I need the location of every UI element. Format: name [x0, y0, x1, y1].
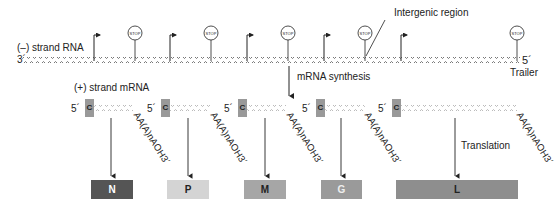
- trailer-label: Trailer: [510, 67, 538, 78]
- minus-strand-label: (–) strand RNA: [17, 42, 84, 53]
- svg-text:STOP: STOP: [360, 31, 371, 36]
- svg-text:STOP: STOP: [283, 31, 294, 36]
- five-prime-label: 5´: [71, 103, 80, 114]
- svg-text:STOP: STOP: [206, 31, 217, 36]
- protein-n: N: [91, 180, 133, 199]
- five-prime-label: 5´: [378, 103, 387, 114]
- five-prime-label: 5´: [147, 103, 156, 114]
- mrna-synthesis-label: mRNA synthesis: [297, 71, 370, 82]
- five-prime-label: 5´: [224, 103, 233, 114]
- protein-m: M: [244, 180, 286, 199]
- cap-box: C: [161, 99, 170, 117]
- cap-box: C: [316, 99, 325, 117]
- five-prime-label: 5´: [522, 54, 532, 66]
- svg-text:STOP: STOP: [130, 31, 141, 36]
- protein-l: L: [396, 180, 518, 199]
- three-prime-label: 3´: [17, 54, 26, 65]
- plus-strand-label: (+) strand mRNA: [74, 82, 149, 93]
- protein-g: G: [321, 180, 362, 199]
- intergenic-region-label: Intergenic region: [394, 7, 469, 18]
- cap-box: C: [85, 99, 94, 117]
- svg-text:STOP: STOP: [512, 31, 523, 36]
- cap-box: C: [392, 99, 401, 117]
- minus-strand-rna: [22, 57, 520, 63]
- five-prime-label: 5´: [302, 103, 311, 114]
- cap-box: C: [238, 99, 247, 117]
- translation-label: Translation: [461, 140, 510, 151]
- protein-p: P: [167, 180, 209, 199]
